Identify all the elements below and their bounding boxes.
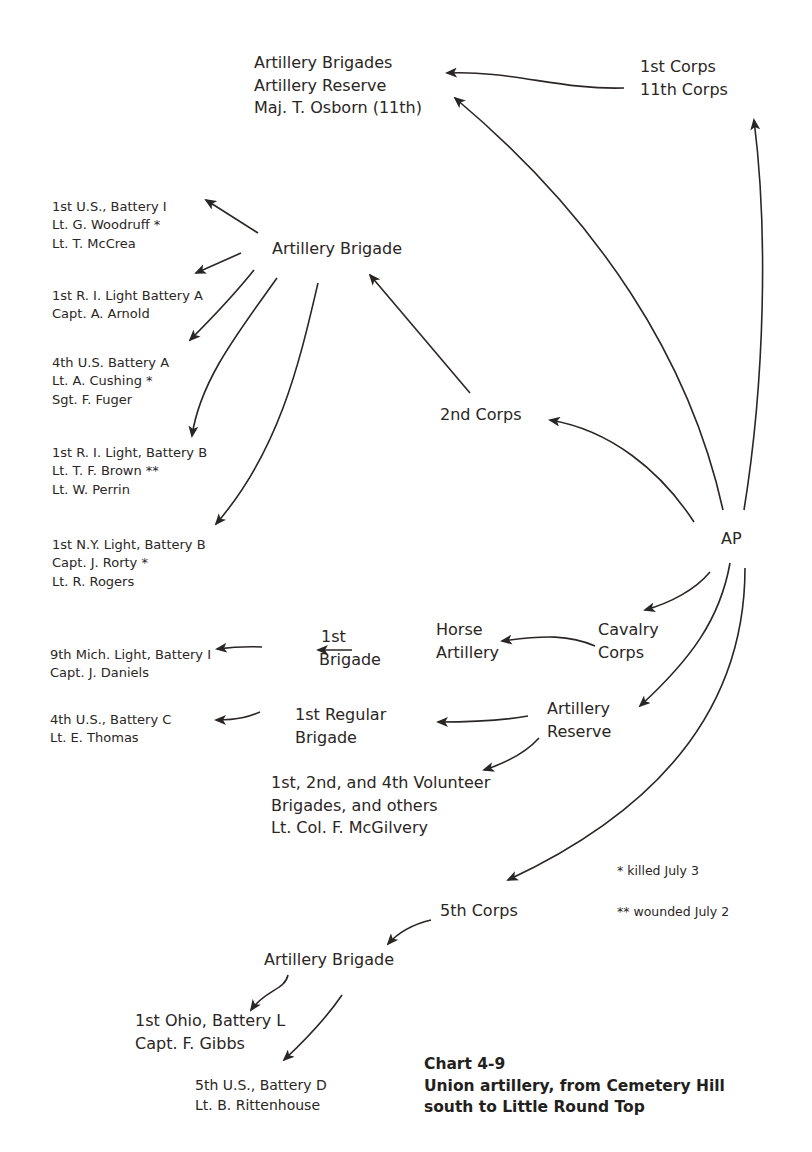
battery-1: 1st U.S., Battery I Lt. G. Woodruff * Lt… [52,198,167,253]
arrow-brigade5-to-ohio [251,975,288,1010]
caption-title-line-1: Union artillery, from Cemetery Hill [424,1076,725,1098]
battery-4-officer-1: Lt. T. F. Brown ** [52,462,207,480]
arrow-brigade-to-battery4 [192,278,277,436]
regular-line-1: 1st Regular [295,704,386,727]
mich-unit: 9th Mich. Light, Battery I [50,646,211,664]
battery-3-officer-1: Lt. A. Cushing * [52,372,169,390]
battery-4-unit: 1st R. I. Light, Battery B [52,444,207,462]
arrow-cavalry-to-horse [502,637,595,646]
arrow-ap-to-corps2 [550,420,694,522]
first-brigade-line-1: 1st [319,626,381,649]
node-corps-5: 5th Corps [440,900,518,923]
reserve-line-2: Reserve [547,721,611,744]
battery-3: 4th U.S. Battery A Lt. A. Cushing * Sgt.… [52,354,169,409]
battery-3-unit: 4th U.S. Battery A [52,354,169,372]
volunteer-line-2: Brigades, and others [271,795,490,818]
battery-4-officer-2: Lt. W. Perrin [52,481,207,499]
ohio-unit: 1st Ohio, Battery L [135,1010,285,1033]
arrow-brigade1-to-mich [217,647,262,649]
caption-number: Chart 4-9 [424,1054,725,1076]
arrow-reserve-to-volunteer [484,738,539,770]
osborn-line-1: Artillery Brigades [254,52,422,75]
us5d-unit: 5th U.S., Battery D [195,1076,327,1096]
caption-title-line-2: south to Little Round Top [424,1097,725,1119]
arrow-regular-to-us4c [216,712,260,720]
battery-1-unit: 1st U.S., Battery I [52,198,167,216]
mich-officer: Capt. J. Daniels [50,664,211,682]
arrow-brigade-to-battery5 [216,283,318,524]
us4c-officer: Lt. E. Thomas [50,729,171,747]
node-ohio-battery: 1st Ohio, Battery L Capt. F. Gibbs [135,1010,285,1055]
cavalry-line-1: Cavalry [598,619,659,642]
battery-1-officer-1: Lt. G. Woodruff * [52,216,167,234]
osborn-line-2: Artillery Reserve [254,75,422,98]
node-reserve: Artillery Reserve [547,698,611,743]
battery-2-officer: Capt. A. Arnold [52,305,203,323]
arrow-corps1-to-osborn [447,73,624,88]
node-brigade-2: Artillery Brigade [272,238,402,261]
volunteer-line-1: 1st, 2nd, and 4th Volunteer [271,772,490,795]
regular-line-2: Brigade [295,727,386,750]
legend-wounded: ** wounded July 2 [617,903,729,921]
battery-5-officer-2: Lt. R. Rogers [52,573,206,591]
node-first-brigade: 1st Brigade [319,626,381,671]
battery-5-officer-1: Capt. J. Rorty * [52,554,206,572]
arrow-brigade-to-battery2 [196,253,241,273]
node-us5d-battery: 5th U.S., Battery D Lt. B. Rittenhouse [195,1076,327,1116]
node-corps-2: 2nd Corps [440,404,522,427]
cavalry-line-2: Corps [598,642,659,665]
arrow-ap-to-corps5 [508,568,745,880]
arrow-corps5-to-brigade5 [388,920,431,944]
node-cavalry: Cavalry Corps [598,619,659,664]
chart-caption: Chart 4-9 Union artillery, from Cemetery… [424,1054,725,1119]
battery-5: 1st N.Y. Light, Battery B Capt. J. Rorty… [52,536,206,591]
node-ap: AP [721,528,742,551]
battery-4: 1st R. I. Light, Battery B Lt. T. F. Bro… [52,444,207,499]
arrow-reserve-to-regular [438,716,528,722]
battery-3-officer-2: Sgt. F. Fuger [52,391,169,409]
node-horse-artillery: Horse Artillery [436,619,499,664]
battery-1-officer-2: Lt. T. McCrea [52,235,167,253]
node-corps-1-11: 1st Corps 11th Corps [640,56,728,101]
node-osborn: Artillery Brigades Artillery Reserve Maj… [254,52,422,120]
node-brigade-5: Artillery Brigade [264,949,394,972]
first-brigade-line-2: Brigade [319,649,381,672]
ohio-officer: Capt. F. Gibbs [135,1033,285,1056]
arrow-ap-to-osborn [455,98,723,510]
arrow-brigade-to-battery1 [206,200,258,233]
corps-1-label: 1st Corps [640,56,728,79]
battery-5-unit: 1st N.Y. Light, Battery B [52,536,206,554]
corps-11-label: 11th Corps [640,79,728,102]
node-volunteer: 1st, 2nd, and 4th Volunteer Brigades, an… [271,772,490,840]
arrow-ap-to-cavalry [645,572,710,610]
node-mich-battery: 9th Mich. Light, Battery I Capt. J. Dani… [50,646,211,683]
arrow-ap-to-corps1 [744,120,763,510]
node-regular-brigade: 1st Regular Brigade [295,704,386,749]
battery-2-unit: 1st R. I. Light Battery A [52,287,203,305]
legend-killed: * killed July 3 [617,862,699,880]
osborn-line-3: Maj. T. Osborn (11th) [254,97,422,120]
reserve-line-1: Artillery [547,698,611,721]
arrow-brigade5-to-us5d [284,995,342,1060]
us5d-officer: Lt. B. Rittenhouse [195,1096,327,1116]
arrow-corps2-to-brigade [370,275,470,393]
volunteer-line-3: Lt. Col. F. McGilvery [271,817,490,840]
battery-2: 1st R. I. Light Battery A Capt. A. Arnol… [52,287,203,324]
horse-line-2: Artillery [436,642,499,665]
us4c-unit: 4th U.S., Battery C [50,711,171,729]
horse-line-1: Horse [436,619,499,642]
node-us4c-battery: 4th U.S., Battery C Lt. E. Thomas [50,711,171,748]
